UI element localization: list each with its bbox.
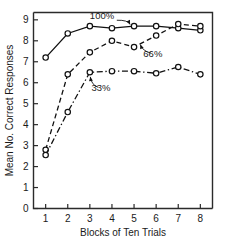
chart-figure: 0123456789 12345678 100%66%33% Blocks of… (0, 0, 242, 246)
data-point-marker (131, 23, 136, 28)
y-axis-title: Mean No. Correct Responses (4, 45, 15, 177)
data-point-marker (176, 64, 181, 69)
data-point-marker (176, 21, 181, 26)
y-tick-label: 6 (23, 77, 29, 88)
y-tick-label: 1 (23, 182, 29, 193)
y-tick-label: 9 (23, 14, 29, 25)
series-label-33pct: 33% (91, 82, 111, 93)
x-tick-label: 8 (198, 213, 204, 224)
y-tick-label: 3 (23, 140, 29, 151)
series-label-100pct: 100% (90, 10, 115, 21)
x-tick-label: 1 (43, 213, 49, 224)
x-tick-label: 7 (175, 213, 181, 224)
data-point-marker (87, 70, 92, 75)
data-point-marker (65, 109, 70, 114)
x-tick-label: 4 (109, 213, 115, 224)
y-tick-label: 4 (23, 119, 29, 130)
data-point-marker (131, 44, 136, 49)
data-point-marker (43, 55, 48, 60)
x-tick-label: 3 (87, 213, 93, 224)
y-tick-label: 8 (23, 35, 29, 46)
data-point-marker (153, 71, 158, 76)
line-chart: 0123456789 12345678 100%66%33% Blocks of… (0, 0, 242, 246)
y-tick-label: 0 (23, 203, 29, 214)
y-tick-label: 2 (23, 161, 29, 172)
data-point-marker (87, 23, 92, 28)
series-label-66pct: 66% (143, 48, 163, 59)
data-point-marker (198, 72, 203, 77)
data-point-marker (153, 23, 158, 28)
data-point-marker (131, 69, 136, 74)
data-point-marker (198, 23, 203, 28)
data-point-marker (65, 31, 70, 36)
data-point-marker (43, 152, 48, 157)
data-point-marker (109, 26, 114, 31)
data-point-marker (153, 33, 158, 38)
data-point-marker (87, 50, 92, 55)
data-point-marker (65, 72, 70, 77)
y-tick-label: 5 (23, 98, 29, 109)
data-point-marker (109, 69, 114, 74)
x-tick-label: 2 (65, 213, 71, 224)
x-tick-label: 6 (153, 213, 159, 224)
data-point-marker (109, 38, 114, 43)
x-tick-label: 5 (131, 213, 137, 224)
x-axis-title: Blocks of Ten Trials (80, 227, 166, 238)
y-tick-label: 7 (23, 56, 29, 67)
